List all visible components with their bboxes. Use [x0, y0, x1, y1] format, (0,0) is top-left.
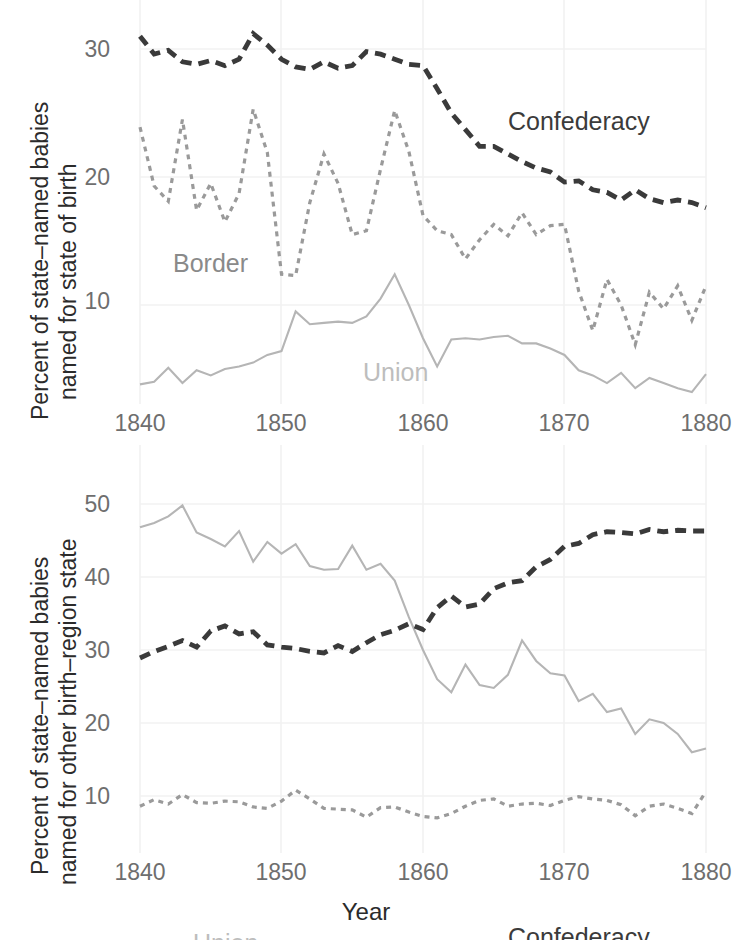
- x-tick-top-1840: 1840: [100, 410, 180, 437]
- x-tick-bottom-1870: 1870: [524, 859, 604, 886]
- x-tick-bottom-1840: 1840: [100, 859, 180, 886]
- x-tick-bottom-1860: 1860: [383, 859, 463, 886]
- x-tick-bottom-1850: 1850: [241, 859, 321, 886]
- gridlines-top: [140, 0, 706, 404]
- chart-panel-bottom: Percent of state–named babies named for …: [0, 445, 732, 905]
- x-axis-title: Year: [0, 898, 732, 926]
- x-tick-top-1880: 1880: [666, 410, 732, 437]
- x-tick-top-1860: 1860: [383, 410, 463, 437]
- x-tick-top-1870: 1870: [524, 410, 604, 437]
- x-tick-bottom-1880: 1880: [666, 859, 732, 886]
- figure-root: Percent of state–named babies named for …: [0, 0, 732, 940]
- x-tick-top-1850: 1850: [241, 410, 321, 437]
- series-label-union-top: Union: [363, 358, 428, 387]
- plot-area-bottom: [0, 445, 732, 865]
- chart-panel-top: Percent of state–named babies named for …: [0, 0, 732, 455]
- plot-area-top: [0, 0, 732, 420]
- series-label-border-top: Border: [173, 249, 248, 278]
- series-label-union-bottom: Union: [193, 929, 258, 940]
- series-label-confederacy-top: Confederacy: [508, 107, 650, 136]
